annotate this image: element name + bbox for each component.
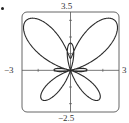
polar-plot (0, 0, 129, 123)
